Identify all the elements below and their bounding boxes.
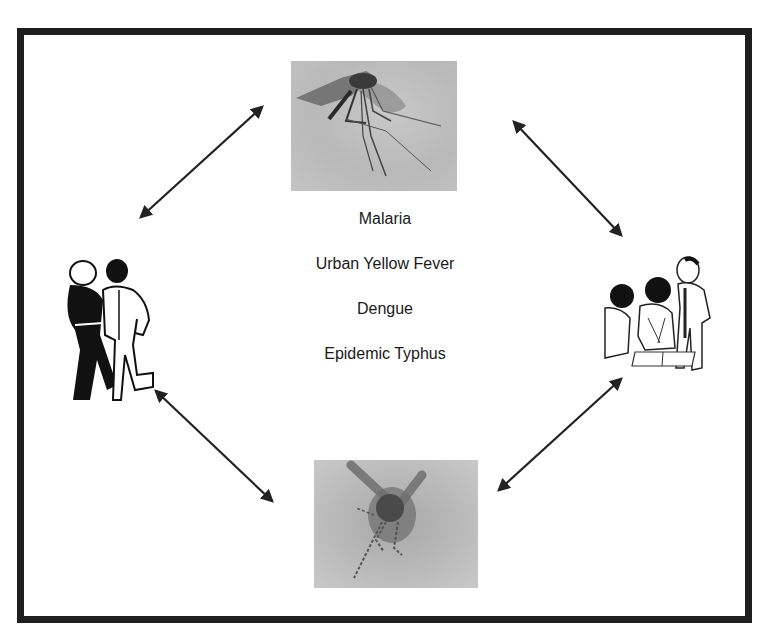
arrow-bottom-left [156,391,272,501]
arrow-left-top [141,107,262,217]
arrows-layer [0,0,774,639]
arrow-top-right [514,122,621,235]
arrow-right-bottom [499,379,621,490]
